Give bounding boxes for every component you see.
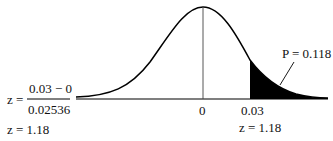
formula-denominator: 0.02536 bbox=[28, 103, 70, 116]
p-pointer-line bbox=[280, 62, 294, 85]
shaded-tail-area bbox=[250, 60, 328, 99]
p-value-label: P = 0.118 bbox=[282, 47, 331, 60]
z-value-under-axis: z = 1.18 bbox=[239, 121, 281, 134]
formula-lhs: z = bbox=[7, 93, 23, 106]
tick-label-mean: 0 bbox=[199, 104, 206, 117]
normal-curve-diagram bbox=[0, 0, 333, 141]
tick-label-observed: 0.03 bbox=[241, 104, 264, 117]
formula-result: z = 1.18 bbox=[7, 123, 49, 136]
formula-numerator: 0.03 − 0 bbox=[29, 82, 72, 95]
